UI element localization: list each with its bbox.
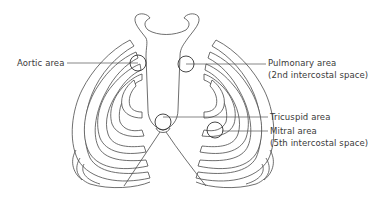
pulmonary-area-label: Pulmonary area (2nd intercostal space) (268, 57, 368, 81)
right-ribs (196, 40, 274, 188)
rib-cage-illustration (72, 14, 274, 188)
mitral-area-label: Mitral area (5th intercostal space) (270, 125, 368, 149)
aortic-label-text: Aortic area (17, 58, 65, 68)
aortic-area-label: Aortic area (17, 57, 65, 69)
rib-cage-diagram (0, 0, 372, 212)
left-ribs (72, 40, 150, 188)
mitral-label-subtext: (5th intercostal space) (270, 137, 368, 149)
tricuspid-area-label: Tricuspid area (270, 111, 331, 123)
pulmonary-label-text: Pulmonary area (268, 57, 368, 69)
tricuspid-label-text: Tricuspid area (270, 112, 331, 122)
pulmonary-label-subtext: (2nd intercostal space) (268, 69, 368, 81)
mitral-label-text: Mitral area (270, 125, 368, 137)
